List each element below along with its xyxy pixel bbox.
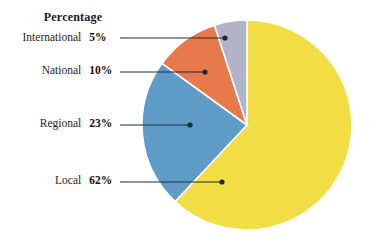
leader-dot-local [219,179,224,184]
legend-category-label: National [0,64,81,76]
legend-category-label: Local [0,174,81,186]
legend-row-international: International 5% [0,31,146,46]
leader-dot-regional [187,122,192,127]
legend-row-regional: Regional 23% [0,117,146,132]
legend-percent-value: 23% [81,117,146,129]
legend-percent-value: 10% [81,64,146,76]
leader-dot-international [222,35,227,40]
pie-chart-figure: Percentage International 5% National 10%… [0,0,374,242]
legend-percent-value: 62% [81,174,146,186]
legend-category-label: International [0,31,81,43]
legend-percent-value: 5% [81,31,146,43]
legend-row-local: Local 62% [0,174,146,189]
legend-category-label: Regional [0,117,81,129]
legend-row-national: National 10% [0,64,146,79]
leader-dot-national [202,69,207,74]
legend-header: Percentage [0,10,146,25]
